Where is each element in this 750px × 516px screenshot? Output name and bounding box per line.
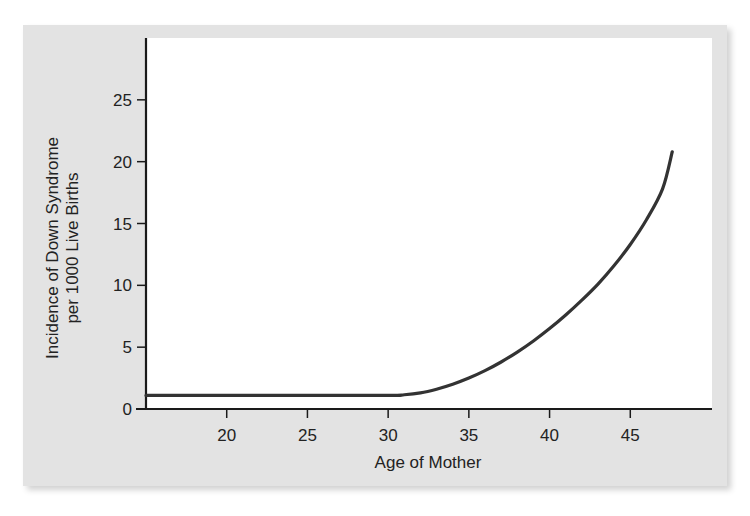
y-tick-label: 20 <box>113 153 132 172</box>
y-axis-title-line1: Incidence of Down Syndrome <box>43 137 62 359</box>
x-tick-label: 35 <box>459 426 478 445</box>
line-chart: 2025303540450510152025 Age of Mother Inc… <box>0 0 750 516</box>
y-tick-label: 15 <box>113 215 132 234</box>
y-axis-title-line2: per 1000 Live Births <box>63 172 82 323</box>
x-tick-label: 25 <box>298 426 317 445</box>
y-axis-title: Incidence of Down Syndrome per 1000 Live… <box>43 137 82 359</box>
x-axis-title: Age of Mother <box>375 453 482 472</box>
x-tick-label: 45 <box>621 426 640 445</box>
x-tick-label: 40 <box>540 426 559 445</box>
y-tick-label: 5 <box>123 338 132 357</box>
y-tick-label: 0 <box>123 400 132 419</box>
y-tick-label: 25 <box>113 91 132 110</box>
x-tick-label: 30 <box>379 426 398 445</box>
x-tick-label: 20 <box>217 426 236 445</box>
y-tick-label: 10 <box>113 276 132 295</box>
plot-area <box>146 38 712 409</box>
